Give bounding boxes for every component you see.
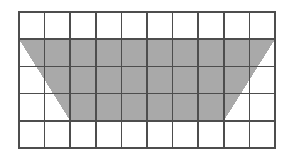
- grid-cell: [249, 121, 275, 148]
- grid-cell: [121, 12, 147, 39]
- grid-cell: [147, 121, 173, 148]
- grid-cell: [96, 12, 122, 39]
- grid-cell: [45, 121, 71, 148]
- grid-cell: [173, 121, 199, 148]
- grid-cell: [173, 12, 199, 39]
- grid-cell: [198, 121, 224, 148]
- grid-cell: [19, 94, 45, 121]
- grid-cell: [121, 121, 147, 148]
- grid-cell: [70, 121, 96, 148]
- grid-cell: [198, 12, 224, 39]
- grid-cell: [147, 12, 173, 39]
- figure-container: [0, 0, 291, 164]
- grid-cell: [19, 121, 45, 148]
- grid-cell: [45, 12, 71, 39]
- grid-cell: [224, 12, 250, 39]
- grid-cell: [96, 121, 122, 148]
- grid-cell: [70, 12, 96, 39]
- grid-cell: [249, 12, 275, 39]
- grid-figure: [0, 0, 291, 164]
- grid-cell: [19, 12, 45, 39]
- grid-cell: [224, 121, 250, 148]
- grid-cell: [249, 94, 275, 121]
